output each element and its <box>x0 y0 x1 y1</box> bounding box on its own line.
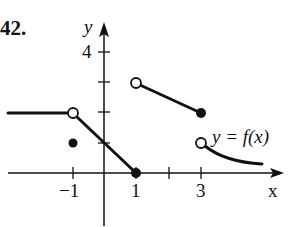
function-label: y = f(x) <box>212 126 269 148</box>
closed-point-1-0 <box>131 168 141 178</box>
segment-middle-linear <box>140 85 201 113</box>
open-point-1-3 <box>131 78 141 88</box>
function-graph <box>0 0 295 227</box>
x-tick-label-neg1: −1 <box>59 180 79 202</box>
open-point-neg1-2 <box>68 108 78 118</box>
closed-point-3-2 <box>196 108 206 118</box>
x-axis-label: x <box>268 180 278 202</box>
open-point-3-1 <box>196 138 206 148</box>
closed-point-neg1-1 <box>69 139 78 148</box>
segment-decaying-curve <box>205 146 262 164</box>
segment-decreasing-linear <box>77 117 136 173</box>
y-axis-label: y <box>84 16 92 38</box>
x-tick-label-1: 1 <box>131 180 141 202</box>
x-tick-label-3: 3 <box>196 180 206 202</box>
y-tick-label-4: 4 <box>82 41 92 63</box>
